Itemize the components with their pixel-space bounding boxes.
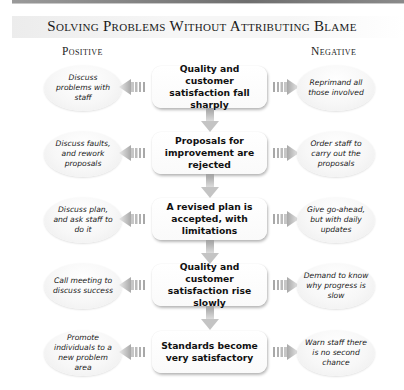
positive-response: Call meeting to discuss success [44, 263, 122, 309]
arrow-left-icon [117, 277, 147, 293]
positive-response: Discuss plan, and ask staff to do it [44, 197, 122, 243]
negative-response: Give go-ahead, but with daily updates [297, 197, 375, 243]
positive-response: Discuss faults, and rework proposals [44, 131, 122, 177]
step-box: Standards become very satisfactory [152, 331, 267, 373]
negative-response: Reprimand all those involved [297, 65, 375, 111]
step-row-2: Discuss faults, and rework proposals Pro… [0, 132, 404, 178]
arrow-left-icon [117, 211, 147, 227]
top-rule [12, 0, 404, 4]
step-row-4: Call meeting to discuss success Quality … [0, 264, 404, 310]
positive-response: Promote individuals to a new problem are… [44, 330, 122, 376]
step-row-1: Discuss problems with staff Quality and … [0, 66, 404, 112]
step-box: A revised plan is accepted, with limitat… [152, 198, 267, 240]
step-row-3: Discuss plan, and ask staff to do it A r… [0, 198, 404, 244]
step-row-5: Promote individuals to a new problem are… [0, 331, 404, 377]
negative-response: Order staff to carry out the proposals [297, 131, 375, 177]
step-box: Quality and customer satisfaction rise s… [152, 264, 267, 306]
diagram-title: Solving Problems Without Attributing Bla… [0, 18, 404, 35]
arrow-left-icon [117, 79, 147, 95]
arrow-down-icon [201, 108, 219, 132]
negative-response: Demand to know why progress is slow [297, 263, 375, 309]
arrow-down-icon [201, 174, 219, 198]
step-box: Proposals for improvement are rejected [152, 132, 267, 174]
positive-response: Discuss problems with staff [44, 65, 122, 111]
step-box: Quality and customer satisfaction fall s… [152, 66, 267, 108]
negative-column-header: Negative [311, 45, 356, 57]
positive-column-header: Positive [62, 45, 103, 57]
arrow-left-icon [117, 145, 147, 161]
arrow-down-icon [201, 306, 219, 330]
arrow-left-icon [117, 344, 147, 360]
negative-response: Warn staff there is no second chance [297, 330, 375, 376]
